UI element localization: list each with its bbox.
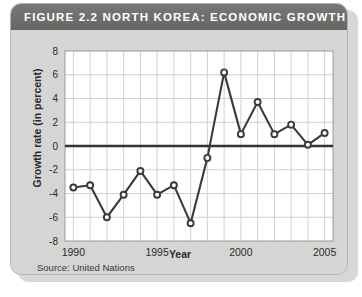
data-point-marker [204,155,210,161]
data-point-marker [305,142,311,148]
figure-title-bar: FIGURE 2.2 NORTH KOREA: ECONOMIC GROWTH [11,4,347,30]
data-point-marker [154,192,160,198]
data-point-marker [87,182,93,188]
figure-root: FIGURE 2.2 NORTH KOREA: ECONOMIC GROWTH … [0,0,362,297]
data-point-marker [322,130,328,136]
data-point-marker [271,131,277,137]
y-axis-tick-label: 0 [52,141,58,152]
data-point-marker [288,122,294,128]
data-point-marker [188,220,194,226]
y-axis-tick-label: -8 [49,236,58,247]
figure-title: FIGURE 2.2 NORTH KOREA: ECONOMIC GROWTH [24,11,346,23]
y-axis-tick-label: 8 [52,46,58,57]
data-point-marker [121,192,127,198]
data-point-marker [255,99,261,105]
plot-area-wrapper: 86420-2-4-6-81990199520002005 [11,30,348,275]
y-axis-tick-label: 6 [52,69,58,80]
data-point-marker [238,131,244,137]
source-note: Source: United Nations [37,262,135,273]
y-axis-tick-label: 2 [52,117,58,128]
figure-card: FIGURE 2.2 NORTH KOREA: ECONOMIC GROWTH … [10,3,348,275]
data-point-marker [104,214,110,220]
data-point-marker [70,185,76,191]
y-axis-tick-label: -2 [49,164,58,175]
x-axis-label: Year [11,248,348,260]
data-point-marker [171,182,177,188]
data-point-marker [221,69,227,75]
y-axis-tick-label: -4 [49,188,58,199]
y-axis-tick-label: -6 [49,212,58,223]
line-chart-svg: 86420-2-4-6-81990199520002005 [11,30,348,275]
chart-body: Growth rate (in percent) 86420-2-4-6-819… [11,30,347,275]
data-point-marker [137,168,143,174]
y-axis-tick-label: 4 [52,93,58,104]
